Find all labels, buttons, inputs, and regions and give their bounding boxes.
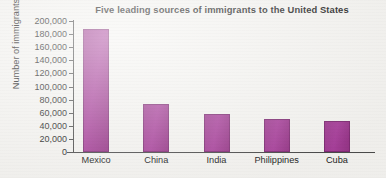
y-axis-tick [69, 21, 73, 22]
y-axis-tick-label: 20,000 [39, 134, 67, 144]
bar-china [143, 104, 169, 152]
y-axis-tick [69, 152, 73, 153]
y-axis-tick-label: 200,000 [34, 16, 67, 26]
bar-philippines [264, 119, 290, 152]
x-axis-tick-label-mexico: Mexico [82, 155, 111, 165]
y-axis-tick [69, 47, 73, 48]
y-axis-tick-label: 180,000 [34, 29, 67, 39]
y-axis-tick [69, 100, 73, 101]
y-axis-tick-label: 160,000 [34, 42, 67, 52]
y-axis-tick-label: 60,000 [39, 108, 67, 118]
y-axis-tick-label: 140,000 [34, 55, 67, 65]
y-axis-tick-label: 80,000 [39, 95, 67, 105]
bar-cuba [324, 121, 350, 152]
y-axis-tick-label: 120,000 [34, 68, 67, 78]
y-axis-tick [69, 73, 73, 74]
y-axis-tick-label: 0 [62, 147, 67, 157]
y-axis-tick-label: 40,000 [39, 121, 67, 131]
y-axis-tick [69, 60, 73, 61]
plot-area: 020,00040,00060,00080,000100,000120,0001… [74, 21, 375, 152]
y-axis-tick [69, 126, 73, 127]
chart-title: Five leading sources of immigrants to th… [62, 4, 382, 15]
bar-india [204, 114, 230, 152]
bar-mexico [83, 29, 109, 152]
y-axis-title: Number of immigrants [11, 0, 21, 104]
y-axis-tick [69, 34, 73, 35]
y-axis-tick [69, 139, 73, 140]
x-axis-line [67, 152, 375, 153]
y-axis-tick [69, 87, 73, 88]
x-axis-tick-label-india: India [207, 155, 227, 165]
x-axis-tick-label-china: China [144, 155, 168, 165]
y-axis-tick-label: 100,000 [34, 82, 67, 92]
x-axis-tick-label-philippines: Philippines [254, 155, 298, 165]
y-axis-tick [69, 113, 73, 114]
bar-chart-figure: Five leading sources of immigrants to th… [0, 0, 386, 178]
x-axis-tick-label-cuba: Cuba [326, 155, 348, 165]
